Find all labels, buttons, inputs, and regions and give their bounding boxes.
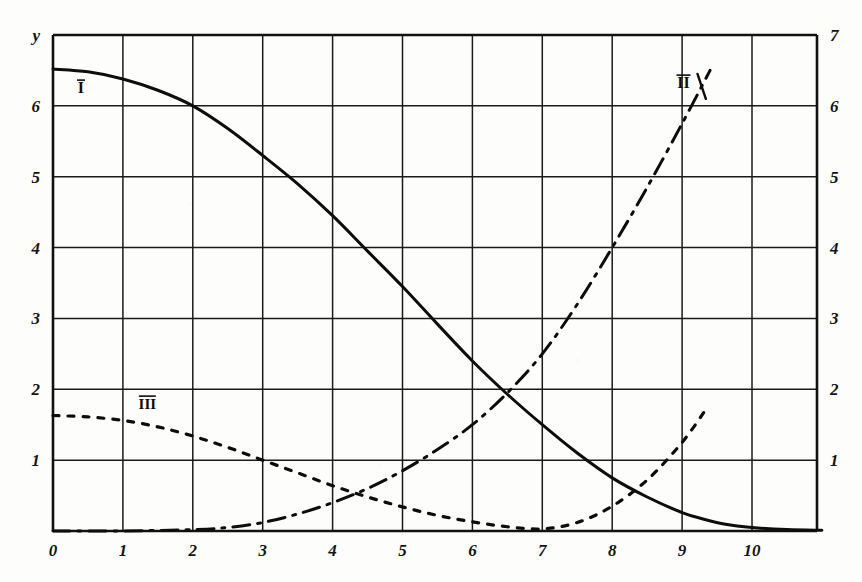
x-tick-label-3: 3 xyxy=(257,541,267,560)
y-axis-right-tick-labels: 1234567 xyxy=(829,26,840,470)
x-tick-label-2: 2 xyxy=(188,541,198,560)
x-tick-label-6: 6 xyxy=(468,541,477,560)
y-right-tick-label-6: 6 xyxy=(830,97,839,116)
curve-i xyxy=(53,69,822,530)
x-tick-label-10: 10 xyxy=(744,541,762,560)
chart-figure: 012345678910 123456 1234567 IIIIII y xyxy=(0,0,862,582)
y-right-tick-label-4: 4 xyxy=(829,239,839,258)
x-axis-tick-labels: 012345678910 xyxy=(49,541,761,560)
plot-frame xyxy=(53,35,817,531)
y-right-tick-label-1: 1 xyxy=(830,451,839,470)
y-right-tick-label-2: 2 xyxy=(829,380,839,399)
x-tick-label-8: 8 xyxy=(608,541,617,560)
curve-label-i: I xyxy=(78,79,84,96)
y-right-tick-label-7: 7 xyxy=(830,26,840,45)
y-right-tick-label-3: 3 xyxy=(829,309,839,328)
y-axis-left-tick-labels: 123456 xyxy=(31,97,41,470)
curve-label-ii: II xyxy=(677,74,689,91)
y-left-tick-label-5: 5 xyxy=(32,168,41,187)
y-left-tick-label-3: 3 xyxy=(31,309,41,328)
horizontal-gridlines xyxy=(53,106,817,460)
data-curves xyxy=(53,69,822,531)
line-chart-plot: 012345678910 123456 1234567 IIIIII y xyxy=(0,0,862,582)
curve-label-iii: III xyxy=(139,396,157,412)
y-left-tick-label-4: 4 xyxy=(31,239,41,258)
vertical-gridlines xyxy=(123,35,752,531)
x-tick-label-5: 5 xyxy=(398,541,407,560)
y-axis-name: y xyxy=(30,26,40,45)
x-tick-label-0: 0 xyxy=(49,541,58,560)
x-tick-label-4: 4 xyxy=(327,541,337,560)
y-right-tick-label-5: 5 xyxy=(830,168,839,187)
x-tick-label-9: 9 xyxy=(678,541,687,560)
curve-iii xyxy=(53,408,707,529)
y-left-tick-label-2: 2 xyxy=(31,380,41,399)
axis-name-labels: y xyxy=(30,26,40,45)
x-tick-label-7: 7 xyxy=(538,541,548,560)
y-left-tick-label-1: 1 xyxy=(32,451,41,470)
x-tick-label-1: 1 xyxy=(119,541,128,560)
y-left-tick-label-6: 6 xyxy=(32,97,41,116)
